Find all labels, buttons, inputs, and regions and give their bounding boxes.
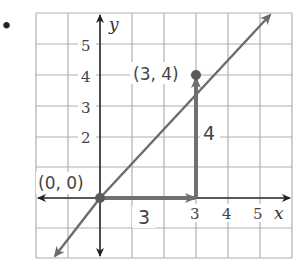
coordinate-graph: 5 4 3 2 3 4 5 y x (3, 4) (0, 0) 3 4 [0, 0, 302, 267]
y-axis-label: y [108, 14, 119, 34]
y-tick-2: 2 [81, 129, 91, 147]
graph-line-negative [55, 198, 100, 256]
x-tick-4: 4 [222, 205, 232, 223]
x-tick-5: 5 [253, 205, 263, 223]
x-axis-label: x [274, 203, 284, 223]
point-origin [95, 193, 105, 203]
y-tick-5: 5 [81, 37, 91, 55]
point-3-4 [191, 70, 201, 80]
run-label: 3 [138, 206, 150, 228]
x-tick-3: 3 [190, 205, 200, 223]
label-point-3-4: (3, 4) [133, 64, 179, 84]
y-tick-4: 4 [81, 68, 91, 86]
rise-label: 4 [203, 122, 215, 144]
y-tick-3: 3 [81, 99, 91, 117]
label-origin: (0, 0) [38, 173, 84, 193]
